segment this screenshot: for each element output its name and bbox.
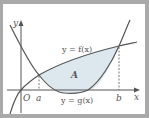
region-a-label: A (70, 70, 78, 80)
curve-g-label: y = g(x) (60, 96, 93, 105)
point-b-label: b (116, 93, 122, 103)
point-a-label: a (36, 93, 41, 103)
x-axis-label: x (134, 92, 139, 102)
area-between-curves-diagram: y x O a b y = f(x) A y = g(x) (0, 0, 149, 118)
y-axis-label: y (12, 18, 19, 28)
curve-f-label: y = f(x) (61, 45, 92, 54)
y-axis-arrow-icon (19, 20, 24, 26)
origin-label: O (23, 93, 31, 103)
